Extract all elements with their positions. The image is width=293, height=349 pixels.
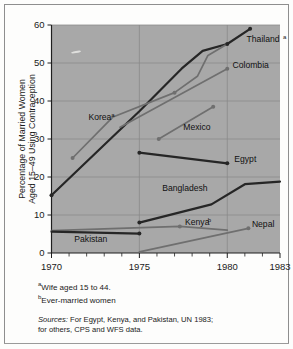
y-tick-label: 50: [34, 57, 45, 68]
series-label-pakistan: Pakistan: [74, 234, 107, 244]
series-label-text: Pakistan: [74, 234, 107, 244]
data-point-mexico: [157, 137, 161, 141]
data-point-korea: [71, 156, 75, 160]
data-point-thailand: [225, 42, 229, 46]
series-label-text: Colombia: [233, 60, 270, 70]
data-point-mexico: [211, 105, 215, 109]
series-label-bangladesh: Bangladesh: [162, 183, 208, 193]
series-label-text: Mexico: [183, 122, 210, 132]
data-point-egypt: [225, 161, 229, 165]
series-label-text: Kenya: [185, 217, 210, 227]
data-point-colombia: [225, 67, 229, 71]
x-tick-label: 1983: [269, 261, 290, 272]
figure-container: 0102030405060 1970197519801983 Thailanda…: [0, 0, 293, 349]
sources-label: Sources:: [38, 315, 70, 324]
series-label-superscript: a: [283, 34, 287, 40]
y-tick-label: 0: [39, 247, 44, 258]
series-label-text: Thailand: [247, 34, 280, 44]
data-point-thailand: [50, 193, 54, 197]
footnote-b: bEver-married women: [38, 294, 116, 305]
sources-line-1: For Egypt, Kenya, and Pakistan, UN 1983;: [70, 315, 213, 324]
y-axis-title-line-1: Percentage of Married Women: [17, 79, 27, 199]
series-label-text: Korea: [88, 112, 111, 122]
data-point-thailand: [248, 27, 252, 31]
series-label-text: Egypt: [234, 154, 257, 164]
series-label-kenya: Kenyab: [185, 217, 212, 227]
series-label-text: Nepal: [252, 219, 275, 229]
bottom-divider: [4, 343, 289, 344]
series-label-korea: Koreaa: [88, 112, 115, 122]
data-point-pakistan: [137, 232, 141, 236]
series-label-thailand: Thailanda: [247, 34, 287, 44]
y-axis-title-group: Percentage of Married WomenAged 15–49 Us…: [17, 74, 38, 204]
x-tick-label: 1970: [41, 261, 62, 272]
data-point-egypt: [137, 151, 141, 155]
y-axis-title-line-2: Aged 15–49 Using Contraception: [27, 74, 37, 204]
footnote-a: aWife aged 15 to 44.: [38, 281, 111, 292]
data-point-nepal: [246, 226, 250, 230]
series-label-text: Bangladesh: [162, 183, 208, 193]
x-tick-label: 1980: [217, 261, 238, 272]
y-axis-title: Percentage of Married WomenAged 15–49 Us…: [17, 74, 38, 204]
series-label-mexico: Mexico: [183, 122, 210, 132]
x-tick-label: 1975: [129, 261, 150, 272]
series-label-egypt: Egypt: [234, 154, 257, 164]
data-point-bangladesh: [137, 221, 141, 225]
series-label-colombia: Colombia: [233, 60, 270, 70]
sources-line-2: for others, CPS and WFS data.: [38, 325, 143, 334]
sources-note: Sources: For Egypt, Kenya, and Pakistan,…: [38, 315, 278, 336]
series-label-nepal: Nepal: [252, 219, 275, 229]
x-axis-tick-labels: 1970197519801983: [41, 261, 291, 272]
y-tick-label: 60: [34, 19, 45, 30]
y-tick-label: 10: [34, 209, 45, 220]
data-point-korea: [173, 91, 177, 95]
data-point-kenya: [178, 224, 182, 228]
